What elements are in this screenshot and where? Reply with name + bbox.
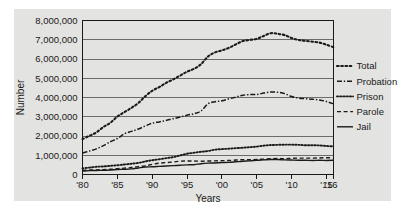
- x-tick-label: '90: [146, 179, 158, 190]
- incarceration-line-chart: 01,000,0002,000,0003,000,0004,000,0005,0…: [0, 0, 414, 222]
- legend-item-prison: Prison: [337, 91, 383, 102]
- series-line-probation: [83, 92, 334, 153]
- legend-item-probation: Probation: [337, 76, 397, 87]
- chart-legend: TotalProbationPrisonParoleJail: [337, 60, 397, 132]
- x-tick-label: '16: [325, 179, 337, 190]
- x-axis-title: Years: [195, 193, 220, 204]
- x-tick-label: '95: [181, 179, 193, 190]
- y-tick-label: 8,000,000: [35, 15, 77, 26]
- y-axis-tick-labels: 01,000,0002,000,0003,000,0004,000,0005,0…: [35, 15, 77, 180]
- legend-label-probation: Probation: [357, 76, 398, 87]
- legend-label-parole: Parole: [357, 106, 384, 117]
- x-tick-label: '05: [251, 179, 263, 190]
- y-tick-label: 5,000,000: [35, 73, 77, 84]
- y-tick-label: 1,000,000: [35, 150, 77, 161]
- x-tick-label: '10: [285, 179, 297, 190]
- x-tick-label: '00: [216, 179, 228, 190]
- legend-label-total: Total: [357, 60, 377, 71]
- y-tick-label: 2,000,000: [35, 130, 77, 141]
- y-tick-label: 6,000,000: [35, 53, 77, 64]
- legend-item-total: Total: [337, 60, 377, 71]
- x-axis-tick-labels: '80'85'90'95'00'05'10'15'16: [76, 179, 337, 190]
- series-line-total: [83, 33, 334, 139]
- legend-label-jail: Jail: [357, 121, 371, 132]
- chart-figure: 01,000,0002,000,0003,000,0004,000,0005,0…: [0, 0, 414, 222]
- x-tick-label: '80: [76, 179, 88, 190]
- y-tick-label: 4,000,000: [35, 92, 77, 103]
- legend-label-prison: Prison: [357, 91, 384, 102]
- y-tick-label: 7,000,000: [35, 34, 77, 45]
- grid-lines: [83, 21, 334, 156]
- legend-item-parole: Parole: [337, 106, 384, 117]
- data-series-layer: [83, 33, 334, 171]
- y-axis-title: Number: [15, 79, 26, 115]
- legend-item-jail: Jail: [337, 121, 371, 132]
- series-line-prison: [83, 145, 334, 169]
- y-tick-label: 3,000,000: [35, 111, 77, 122]
- x-tick-label: '85: [111, 179, 123, 190]
